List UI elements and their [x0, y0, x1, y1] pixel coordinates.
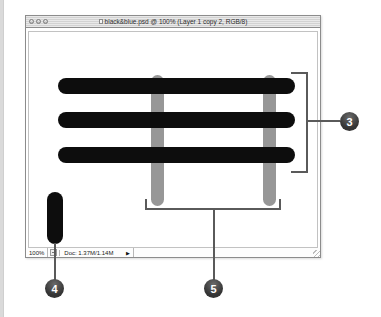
book-figure-page: black&blue.psd @ 100% (Layer 1 copy 2, R…	[0, 0, 381, 317]
callout-3-bracket-bottom-arm	[291, 171, 308, 173]
zoom-level-field[interactable]: 100%	[26, 248, 48, 257]
vertical-gray-bar-left	[151, 75, 164, 206]
window-resize-grip[interactable]	[313, 250, 320, 257]
small-black-capsule	[47, 192, 63, 244]
callout-badge-3: 3	[340, 112, 359, 131]
status-popup-arrow-icon[interactable]: ▶	[116, 250, 133, 256]
horizontal-black-bar-1	[58, 78, 295, 94]
callout-3-bracket-vertical	[306, 72, 308, 173]
horizontal-black-bar-2	[58, 112, 295, 128]
callout-3-connector-line	[308, 120, 340, 122]
vertical-gray-bar-right	[263, 75, 276, 206]
doc-size-field: Doc: 1.37M/1.14M	[59, 250, 116, 256]
document-proxy-icon	[99, 19, 103, 24]
callout-5-connector-line	[213, 210, 215, 280]
window-title-wrap: black&blue.psd @ 100% (Layer 1 copy 2, R…	[26, 16, 320, 27]
callout-3-bracket-top-arm	[291, 72, 308, 74]
page-edge-strip	[0, 0, 4, 317]
status-left-section: 100% Doc: 1.37M/1.14M ▶	[26, 248, 134, 257]
horizontal-black-bar-3	[58, 147, 295, 163]
window-titlebar[interactable]: black&blue.psd @ 100% (Layer 1 copy 2, R…	[26, 16, 320, 28]
callout-badge-5: 5	[204, 279, 223, 298]
callout-badge-4: 4	[45, 279, 64, 298]
photoshop-document-window: black&blue.psd @ 100% (Layer 1 copy 2, R…	[25, 15, 321, 258]
callout-4-connector-line	[54, 243, 56, 280]
callout-5-bracket-left-arm	[145, 199, 147, 210]
window-title: black&blue.psd @ 100% (Layer 1 copy 2, R…	[105, 18, 248, 25]
callout-5-bracket-right-arm	[279, 199, 281, 210]
status-bar: 100% Doc: 1.37M/1.14M ▶	[26, 248, 320, 257]
